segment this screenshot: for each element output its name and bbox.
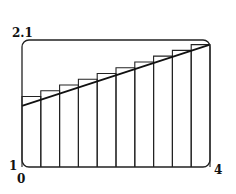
y-axis-min-label: 1 xyxy=(9,160,17,172)
riemann-rectangle xyxy=(22,97,41,167)
riemann-sum-chart xyxy=(0,0,236,194)
y-axis-max-label: 2.1 xyxy=(12,27,33,39)
riemann-rectangle xyxy=(41,91,60,167)
riemann-rectangle xyxy=(135,62,154,167)
riemann-rectangle xyxy=(97,73,116,167)
riemann-rectangle xyxy=(78,79,97,167)
riemann-rectangle xyxy=(191,45,210,167)
riemann-rectangle xyxy=(154,56,173,167)
riemann-rectangle xyxy=(116,68,135,167)
x-axis-min-label: 0 xyxy=(17,173,25,185)
riemann-rectangle xyxy=(172,50,191,167)
riemann-rectangle xyxy=(60,85,79,167)
x-axis-max-label: 4 xyxy=(214,164,222,176)
